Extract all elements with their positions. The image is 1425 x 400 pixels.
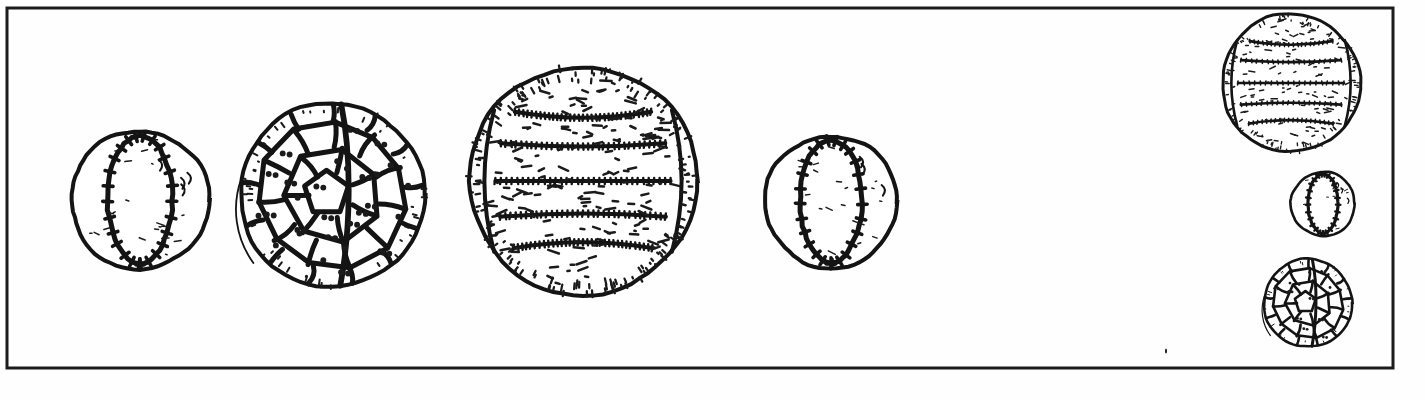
ball-volleyball-5 — [1223, 13, 1361, 153]
marks-layer — [1165, 349, 1167, 354]
background — [0, 0, 1425, 400]
ball-baseball-4 — [765, 136, 897, 269]
figure-canvas — [0, 0, 1425, 400]
ball-soccer-ball-2 — [236, 103, 427, 288]
stray-ink-speck — [1165, 349, 1167, 354]
ball-baseball-1 — [72, 132, 210, 270]
ball-baseball-6 — [1290, 172, 1354, 237]
ball-volleyball-3 — [466, 66, 698, 298]
ball-illustration-svg — [0, 0, 1425, 400]
